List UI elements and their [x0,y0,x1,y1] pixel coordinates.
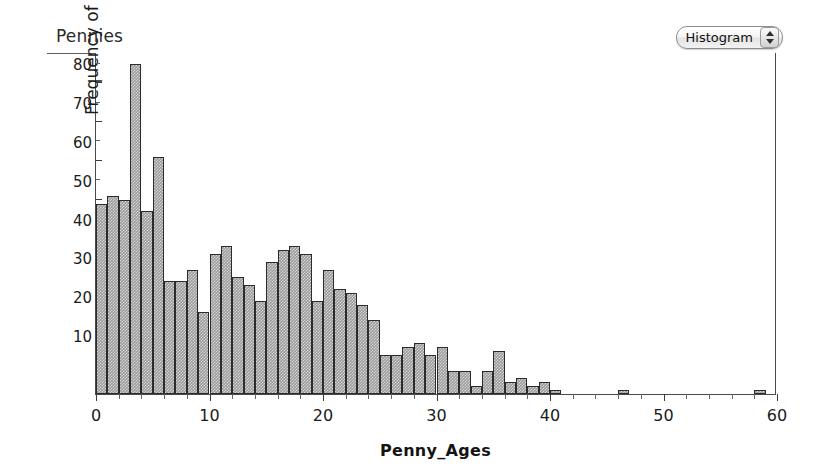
y-tick-label: 40 [58,212,92,230]
histogram-bar[interactable] [391,355,402,394]
histogram-bar[interactable] [448,371,459,394]
histogram-bar[interactable] [232,277,243,394]
y-tick-label: 20 [58,289,92,307]
x-tick-label: 50 [644,406,684,425]
histogram-bar[interactable] [96,204,107,394]
histogram-bar[interactable] [107,196,118,394]
histogram-bar[interactable] [539,382,550,394]
x-tick-label: 40 [530,406,570,425]
chart-type-popup-label: Histogram [686,30,760,45]
histogram-bar[interactable] [175,281,186,394]
histogram-bar[interactable] [266,262,277,394]
x-axis-title: Penny_Ages [96,441,775,460]
x-tick-minor [187,394,188,399]
histogram-bar[interactable] [471,386,482,394]
x-tick-label: 20 [303,406,343,425]
x-tick-label: 30 [417,406,457,425]
histogram-bar[interactable] [300,254,311,394]
histogram-bar[interactable] [618,390,629,394]
histogram-bar[interactable] [141,211,152,394]
x-tick-minor [346,394,347,399]
x-tick-minor [754,394,755,399]
histogram-bar[interactable] [505,382,516,394]
histogram-bar[interactable] [334,289,345,394]
x-tick-major [777,394,778,401]
histogram-bar[interactable] [459,371,470,394]
x-tick-major [210,394,211,401]
histogram-bar[interactable] [357,305,368,394]
histogram-bar[interactable] [278,250,289,394]
x-tick-minor [232,394,233,399]
histogram-bar[interactable] [402,347,413,394]
x-tick-label: 0 [76,406,116,425]
histogram-bar[interactable] [187,270,198,394]
histogram-bar[interactable] [221,246,232,394]
y-tick-label: 50 [58,173,92,191]
histogram-bar[interactable] [289,246,300,394]
x-tick-major [664,394,665,401]
x-tick-major [96,394,97,401]
histogram-bar[interactable] [516,378,527,394]
y-tick-label: 80 [58,56,92,74]
bars-layer [96,53,775,394]
x-tick-minor [368,394,369,399]
x-tick-major [550,394,551,401]
histogram-bar[interactable] [550,390,561,394]
histogram-bar[interactable] [130,64,141,394]
histogram-bar[interactable] [754,390,765,394]
y-tick-label: 10 [58,328,92,346]
y-tick-label: 30 [58,250,92,268]
x-tick-minor [618,394,619,399]
x-tick-minor [595,394,596,399]
x-tick-label: 10 [190,406,230,425]
x-tick-minor [686,394,687,399]
x-tick-minor [641,394,642,399]
x-tick-minor [459,394,460,399]
histogram-bar[interactable] [482,371,493,394]
triangle-up-icon [766,31,774,36]
x-tick-minor [255,394,256,399]
histogram-bar[interactable] [312,301,323,394]
x-tick-minor [141,394,142,399]
x-tick-minor [300,394,301,399]
chart-type-popup-button[interactable]: Histogram [676,26,783,49]
x-tick-minor [391,394,392,399]
histogram-bar[interactable] [437,347,448,394]
x-tick-minor [505,394,506,399]
histogram-panel: Pennies Histogram Frequency of Penny_Age… [0,0,824,468]
x-tick-minor [164,394,165,399]
histogram-bar[interactable] [346,293,357,394]
histogram-bar[interactable] [527,386,538,394]
x-tick-minor [732,394,733,399]
x-tick-minor [119,394,120,399]
histogram-bar[interactable] [164,281,175,394]
x-tick-minor [709,394,710,399]
x-tick-minor [573,394,574,399]
histogram-bar[interactable] [210,254,221,394]
histogram-bar[interactable] [425,355,436,394]
x-tick-minor [414,394,415,399]
triangle-down-icon [766,39,774,44]
histogram-bar[interactable] [493,351,504,394]
histogram-bar[interactable] [323,270,334,394]
histogram-bar[interactable] [414,343,425,394]
x-tick-minor [527,394,528,399]
histogram-bar[interactable] [380,355,391,394]
stepper-icon[interactable] [760,27,779,48]
histogram-bar[interactable] [198,312,209,394]
x-tick-minor [482,394,483,399]
plot-area: Frequency of Penny_Ages 1020304050607080… [95,53,776,395]
histogram-bar[interactable] [153,157,164,394]
x-tick-label: 60 [757,406,797,425]
x-tick-major [323,394,324,401]
x-tick-minor [278,394,279,399]
x-tick-major [437,394,438,401]
histogram-bar[interactable] [255,301,266,394]
histogram-bar[interactable] [119,200,130,394]
histogram-bar[interactable] [368,320,379,394]
y-tick-label: 60 [58,134,92,152]
y-tick-label: 70 [58,95,92,113]
histogram-bar[interactable] [244,285,255,394]
